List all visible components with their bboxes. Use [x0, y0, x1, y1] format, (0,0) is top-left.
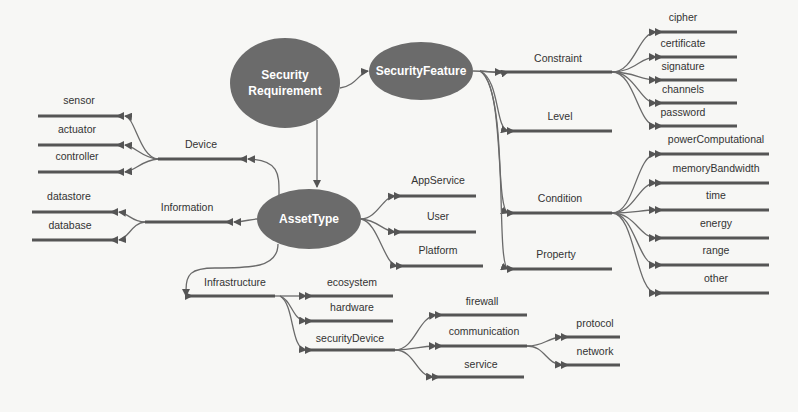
arrowhead-icon [507, 209, 515, 217]
arrowhead-icon [507, 127, 515, 135]
arrowhead-icon [305, 317, 313, 325]
arrowhead-icon [396, 262, 404, 270]
arrowhead-icon [655, 179, 663, 187]
node-label-channels: channels [662, 83, 704, 95]
arrowhead-icon [116, 112, 124, 120]
node-label-platform: Platform [418, 244, 457, 256]
arrowhead-icon [435, 342, 443, 350]
arrowhead-icon [110, 236, 118, 244]
node-label-constraint: Constraint [534, 52, 582, 64]
arrowhead-icon [655, 289, 663, 297]
node-label-powerComputational: powerComputational [668, 133, 764, 145]
node-label-memoryBandwidth: memoryBandwidth [673, 162, 760, 174]
arrowhead-icon [655, 234, 663, 242]
arrowhead-icon [305, 346, 313, 354]
node-label-property: Property [536, 248, 576, 260]
node-label-information: Information [161, 201, 214, 213]
node-label-device: Device [185, 138, 217, 150]
node-label-password: password [661, 106, 706, 118]
node-label-controller: controller [55, 150, 98, 162]
arrowhead-icon [561, 361, 569, 369]
arrowhead-icon [561, 333, 569, 341]
node-label-certificate: certificate [661, 37, 706, 49]
arrowhead-icon [655, 28, 663, 36]
arrowhead-icon [394, 192, 402, 200]
node-label-protocol: protocol [576, 317, 613, 329]
arrowhead-icon [655, 261, 663, 269]
node-label-actuator: actuator [58, 123, 96, 135]
node-label-communication: communication [449, 325, 520, 337]
node-label-datastore: datastore [47, 190, 91, 202]
node-label-user: User [427, 210, 449, 222]
node-label-range: range [703, 244, 730, 256]
arrowhead-icon [655, 206, 663, 214]
ellipse-node-label-sr: Security Requirement [230, 38, 340, 128]
node-label-database: database [48, 219, 91, 231]
node-label-level: Level [547, 110, 572, 122]
arrowhead-icon [185, 292, 193, 300]
arrowhead-icon [239, 155, 247, 163]
arrowhead-icon [116, 141, 124, 149]
arrowhead-icon [655, 150, 663, 158]
node-label-appservice: AppService [411, 174, 465, 186]
node-label-service: service [464, 358, 497, 370]
node-label-firewall: firewall [466, 295, 499, 307]
arrowhead-icon [507, 265, 515, 273]
ellipse-node-label-at: AssetType [257, 189, 361, 249]
node-label-signature: signature [661, 60, 704, 72]
node-label-sensor: sensor [63, 94, 95, 106]
arrowhead-icon [655, 122, 663, 130]
node-label-cipher: cipher [669, 11, 698, 23]
arrowhead-icon [110, 208, 118, 216]
ellipse-node-label-sf: SecurityFeature [369, 42, 473, 100]
node-label-condition: Condition [538, 192, 582, 204]
node-label-other: other [704, 272, 728, 284]
node-label-infrastructure: Infrastructure [204, 276, 266, 288]
node-label-ecosystem: ecosystem [327, 276, 377, 288]
arrowhead-icon [394, 228, 402, 236]
arrowhead-icon [495, 68, 503, 76]
node-label-energy: energy [700, 217, 732, 229]
arrowhead-icon [116, 168, 124, 176]
arrowhead-icon [435, 311, 443, 319]
node-label-securityDevice: securityDevice [316, 332, 384, 344]
arrowhead-icon [432, 373, 440, 381]
node-label-time: time [706, 189, 726, 201]
arrowhead-icon [225, 218, 233, 226]
node-label-network: network [577, 345, 614, 357]
mind-map-diagram: ConstraintLevelConditionPropertycipherce… [0, 0, 798, 412]
arrowhead-icon [305, 292, 313, 300]
node-label-hardware: hardware [330, 301, 374, 313]
